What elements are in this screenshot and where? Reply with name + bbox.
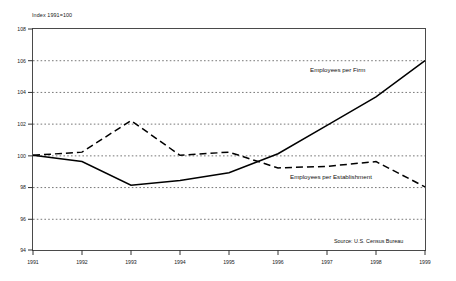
x-tick-1996: 1996 bbox=[263, 259, 293, 265]
plot-frame bbox=[33, 29, 426, 251]
y-tick-102: 102 bbox=[8, 121, 26, 127]
y-tick-96: 96 bbox=[8, 216, 26, 222]
y-tick-106: 106 bbox=[8, 58, 26, 64]
chart-container: Index 1991=100 bbox=[0, 0, 456, 281]
x-tick-1997: 1997 bbox=[312, 259, 342, 265]
series-label-employees-per-firm: Employees per Firm bbox=[310, 66, 365, 73]
series-label-employees-per-establishment: Employees per Establishment bbox=[290, 173, 372, 180]
y-tick-104: 104 bbox=[8, 89, 26, 95]
plot-border bbox=[33, 29, 426, 251]
x-tick-1994: 1994 bbox=[165, 259, 195, 265]
gridlines bbox=[33, 61, 425, 220]
x-tick-1999: 1999 bbox=[410, 259, 440, 265]
x-tick-1992: 1992 bbox=[67, 259, 97, 265]
series-employees-per-firm bbox=[33, 61, 425, 186]
y-tick-100: 100 bbox=[8, 153, 26, 159]
y-tick-94: 94 bbox=[8, 247, 26, 253]
x-tick-1998: 1998 bbox=[361, 259, 391, 265]
x-tick-1991: 1991 bbox=[18, 259, 48, 265]
y-tick-98: 98 bbox=[8, 184, 26, 190]
x-tick-1993: 1993 bbox=[116, 259, 146, 265]
source-note: Source: U.S. Census Bureau bbox=[334, 238, 403, 244]
x-tick-1995: 1995 bbox=[214, 259, 244, 265]
y-tick-108: 108 bbox=[8, 26, 26, 32]
